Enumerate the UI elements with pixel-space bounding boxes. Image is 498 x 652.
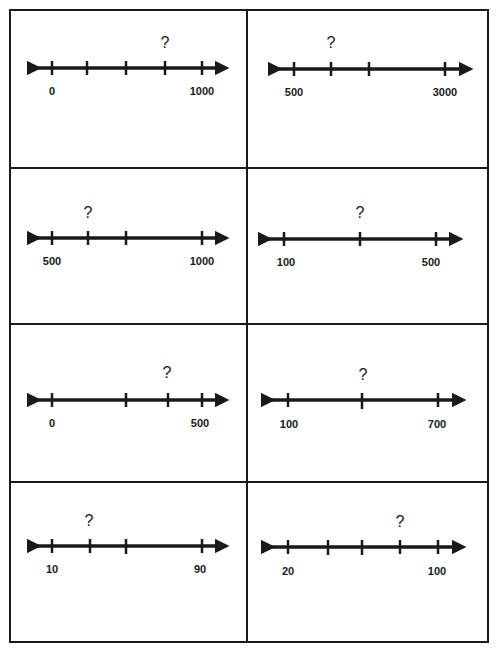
start-label: 10	[46, 563, 58, 575]
unknown-marker: ?	[359, 366, 368, 383]
end-label: 500	[191, 417, 209, 429]
end-label: 700	[428, 418, 446, 430]
unknown-marker: ?	[161, 34, 170, 51]
unknown-marker: ?	[163, 364, 172, 381]
start-label: 0	[49, 417, 55, 429]
end-label: 1000	[190, 255, 214, 267]
start-label: 500	[43, 255, 61, 267]
end-label: 3000	[433, 86, 457, 98]
end-label: 500	[422, 256, 440, 268]
start-label: 500	[285, 86, 303, 98]
end-label: 100	[428, 565, 446, 577]
number-line-worksheet: ? 0 1000 ? 500 3000 ? 500 1000 ? 100 500	[0, 0, 498, 652]
unknown-marker: ?	[396, 513, 405, 530]
unknown-marker: ?	[84, 204, 93, 221]
end-label: 90	[194, 563, 206, 575]
start-label: 20	[282, 565, 294, 577]
start-label: 100	[280, 418, 298, 430]
start-label: 100	[277, 256, 295, 268]
unknown-marker: ?	[356, 204, 365, 221]
unknown-marker: ?	[85, 512, 94, 529]
start-label: 0	[49, 85, 55, 97]
end-label: 1000	[190, 85, 214, 97]
unknown-marker: ?	[327, 34, 336, 51]
